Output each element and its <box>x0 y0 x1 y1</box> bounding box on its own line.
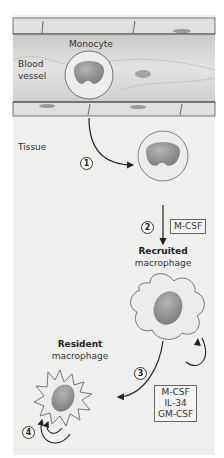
step-3-factor-box: M-CSF IL-34 GM-CSF <box>154 385 197 422</box>
arrow-step-1 <box>89 118 133 165</box>
recruited-macrophage-cell <box>131 274 205 340</box>
factor-gm-csf: GM-CSF <box>158 409 193 420</box>
step-2-factor-box: M-CSF <box>170 219 206 234</box>
recruited-label: macrophage <box>133 258 193 269</box>
factor-m-csf: M-CSF <box>174 221 202 232</box>
step-4-badge: 4 <box>22 426 35 439</box>
blood-vessel-label-line2: vessel <box>18 71 46 82</box>
step-3-badge: 3 <box>134 367 147 380</box>
factor-m-csf: M-CSF <box>158 387 193 398</box>
resident-macrophage-cell <box>34 370 92 426</box>
tissue-monocyte-cell <box>138 131 188 181</box>
step-2-badge: 2 <box>141 221 154 234</box>
factor-il-34: IL-34 <box>158 398 193 409</box>
recruited-label-bold: Recruited <box>135 246 191 257</box>
step-1-badge: 1 <box>80 157 93 170</box>
monocyte-cell <box>65 51 113 99</box>
monocyte-label: Monocyte <box>69 39 113 50</box>
resident-label: macrophage <box>50 351 110 362</box>
blood-vessel-label-line1: Blood <box>18 59 43 70</box>
tissue-label: Tissue <box>18 142 46 153</box>
resident-label-bold: Resident <box>55 339 105 350</box>
